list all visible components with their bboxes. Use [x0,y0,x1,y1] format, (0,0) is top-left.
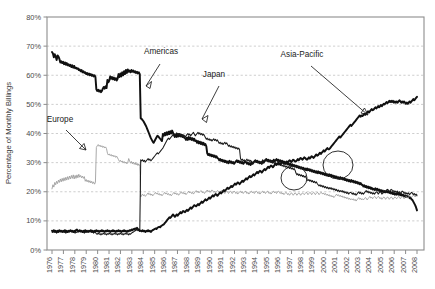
y-tick-label: 50% [26,100,41,109]
chart-figure: 0%10%20%30%40%50%60%70%80% 1976197719781… [0,0,435,289]
x-tick-label: 1988 [182,257,191,273]
y-axis-labels-group: 0%10%20%30%40%50%60%70%80% [26,13,41,255]
x-tick-label: 2006 [387,257,396,273]
x-tick-label: 2007 [399,257,408,273]
x-tick-label: 1985 [148,257,157,273]
x-tick-label: 1980 [91,257,100,273]
annotation-label-japan: Japan [203,70,226,79]
x-tick-label: 1992 [228,257,237,273]
x-tick-label: 2000 [319,257,328,273]
x-tick-label: 1977 [56,257,65,273]
series-line-americas [52,52,417,210]
y-tick-label: 80% [26,13,41,22]
x-tick-label: 1987 [170,257,179,273]
arrow-japan [202,86,219,119]
data-series-group [52,52,417,235]
x-tick-label: 1991 [216,257,225,273]
x-tick-label: 1995 [262,257,271,273]
arrow-asia-pacific [311,66,368,115]
x-tick-label: 2008 [410,257,419,273]
x-tick-label: 2002 [342,257,351,273]
line-chart-canvas: 0%10%20%30%40%50%60%70%80% 1976197719781… [0,0,435,289]
x-tick-label: 1983 [125,257,134,273]
x-tick-label: 1998 [296,257,305,273]
x-axis-ticks-group [52,250,417,254]
x-axis-labels-group: 1976197719781979198019811982198319841985… [45,257,419,273]
y-tick-label: 30% [26,158,41,167]
arrow-europe [66,130,86,150]
plot-frame [47,17,424,250]
x-tick-label: 1986 [159,257,168,273]
series-annotation-labels: AmericasEuropeJapanAsia-Pacific [47,47,324,124]
annotation-label-asia-pacific: Asia-Pacific [281,50,324,59]
y-tick-label: 10% [26,216,41,225]
arrow-americas-head [146,82,152,89]
x-tick-label: 1994 [250,257,259,273]
y-tick-label: 70% [26,42,41,51]
y-tick-label: 40% [26,129,41,138]
x-tick-label: 1981 [102,257,111,273]
x-tick-label: 2003 [353,257,362,273]
annotation-label-europe: Europe [47,115,74,124]
x-tick-label: 1996 [273,257,282,273]
x-tick-label: 1989 [193,257,202,273]
x-tick-label: 1993 [239,257,248,273]
x-tick-label: 1997 [285,257,294,273]
x-tick-label: 1999 [307,257,316,273]
x-tick-label: 2005 [376,257,385,273]
x-tick-label: 1982 [113,257,122,273]
gridlines-group [47,46,424,221]
x-tick-label: 1976 [45,257,54,273]
highlight-circle-1 [281,166,307,190]
y-axis-title: Percentage of Monthly Billings [4,82,13,184]
y-tick-label: 0% [30,246,41,255]
annotation-label-americas: Americas [144,47,178,56]
y-tick-label: 60% [26,71,41,80]
x-tick-label: 1984 [136,257,145,273]
x-tick-label: 2001 [330,257,339,273]
highlight-circle-2 [323,151,353,179]
x-tick-label: 1990 [205,257,214,273]
x-tick-label: 1978 [68,257,77,273]
y-tick-label: 20% [26,187,41,196]
x-tick-label: 1979 [79,257,88,273]
x-tick-label: 2004 [364,257,373,273]
